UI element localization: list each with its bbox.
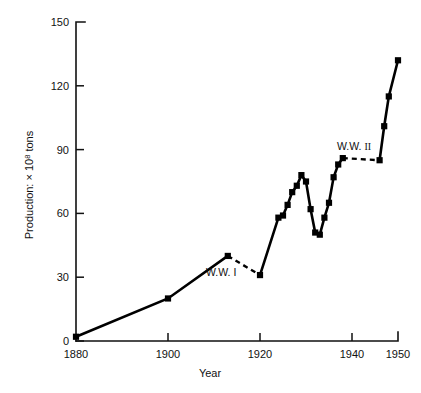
x-axis-tick-label: 1900 xyxy=(156,348,180,360)
data-point-marker xyxy=(317,232,323,238)
data-point-marker xyxy=(326,200,332,206)
data-point-marker xyxy=(289,189,295,195)
data-point-marker xyxy=(308,206,314,212)
ww1-annotation: W.W. I xyxy=(206,266,236,278)
data-point-marker xyxy=(73,334,79,340)
data-point-marker xyxy=(321,215,327,221)
data-point-marker xyxy=(386,93,392,99)
chart-figure: 0306090120150 18801900192019401950 Year … xyxy=(0,0,421,393)
series-markers xyxy=(73,57,401,340)
y-axis-tick-label: 90 xyxy=(57,144,69,156)
data-point-marker xyxy=(294,183,300,189)
x-axis-tick-label: 1880 xyxy=(64,348,88,360)
y-axis-ticks xyxy=(76,86,84,341)
svg-text:W.W. II: W.W. II xyxy=(337,140,371,152)
y-axis-tick-label: 60 xyxy=(57,207,69,219)
y-axis-tick-label: 120 xyxy=(51,80,69,92)
axes-group xyxy=(76,22,398,341)
y-axis-title-prefix: Production: × 10 xyxy=(23,159,35,239)
data-point-marker xyxy=(335,161,341,167)
data-point-marker xyxy=(377,157,383,163)
y-axis-tick-label: 150 xyxy=(51,16,69,28)
data-point-marker xyxy=(381,123,387,129)
data-point-marker xyxy=(225,253,231,259)
x-axis-tick-label: 1940 xyxy=(340,348,364,360)
ww2-annotation: W.W. II xyxy=(337,140,371,152)
y-axis-tick-label: 0 xyxy=(63,335,69,347)
y-axis-title: Production: × 108 tons xyxy=(23,130,36,239)
data-point-marker xyxy=(298,172,304,178)
data-series-group xyxy=(73,57,401,340)
y-axis-line xyxy=(76,22,85,341)
x-axis-tick-label: 1920 xyxy=(248,348,272,360)
series-segment xyxy=(380,60,398,160)
y-axis-tick-labels: 0306090120150 xyxy=(51,16,69,347)
x-axis-ticks xyxy=(168,333,352,341)
production-line-chart: 0306090120150 18801900192019401950 Year … xyxy=(0,0,421,393)
data-point-marker xyxy=(285,202,291,208)
series-solid-segments xyxy=(76,60,398,336)
data-point-marker xyxy=(165,295,171,301)
data-point-marker xyxy=(395,57,401,63)
data-point-marker xyxy=(280,212,286,218)
svg-text:Production: × 108 tons: Production: × 108 tons xyxy=(23,130,36,239)
y-axis-title-suffix: tons xyxy=(23,130,35,154)
x-axis-tick-label: 1950 xyxy=(386,348,410,360)
x-axis-tick-labels: 18801900192019401950 xyxy=(64,348,410,360)
series-wartime-gap-segment xyxy=(343,158,380,160)
data-point-marker xyxy=(257,272,263,278)
x-axis-line xyxy=(76,332,398,341)
data-point-marker xyxy=(331,174,337,180)
data-point-marker xyxy=(303,178,309,184)
data-point-marker xyxy=(340,155,346,161)
x-axis-title: Year xyxy=(199,367,222,379)
y-axis-tick-label: 30 xyxy=(57,271,69,283)
